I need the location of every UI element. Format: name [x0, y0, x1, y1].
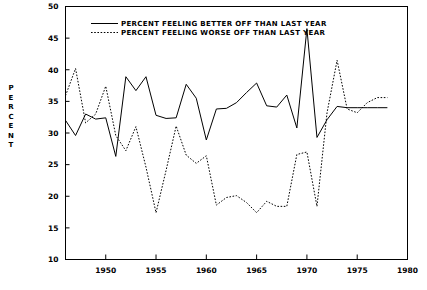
x-axis-ticks — [106, 255, 408, 260]
y-axis-title-char: P — [4, 84, 18, 94]
x-tick-label: 1965 — [246, 266, 267, 275]
y-tick-label: 15 — [48, 224, 58, 233]
chart-figure: P E R C E N T 101520253035404550 1950195… — [0, 0, 427, 290]
y-axis-title-char: T — [4, 141, 18, 151]
y-tick-label: 10 — [48, 255, 58, 264]
y-tick-label: 45 — [48, 34, 58, 43]
x-tick-label: 1970 — [296, 266, 317, 275]
series-line-worse-off — [66, 60, 388, 212]
plot-frame — [66, 7, 408, 260]
series-line-better-off — [66, 29, 388, 157]
y-axis-title-char: N — [4, 132, 18, 142]
x-tick-label: 1950 — [95, 266, 116, 275]
y-axis-tick-labels: 101520253035404550 — [48, 2, 58, 264]
y-axis-title-char: E — [4, 122, 18, 132]
y-axis-ticks — [66, 7, 70, 260]
legend-label-worse-off: PERCENT FEELING WORSE OFF THAN LAST YEAR — [121, 29, 325, 37]
y-tick-label: 30 — [48, 129, 58, 138]
x-axis-tick-labels: 1950195519601965197019751980 — [95, 266, 418, 275]
y-tick-label: 40 — [48, 66, 58, 75]
y-tick-label: 35 — [48, 97, 58, 106]
line-chart-plot: 101520253035404550 195019551960196519701… — [0, 0, 427, 290]
legend-label-better-off: PERCENT FEELING BETTER OFF THAN LAST YEA… — [121, 20, 327, 28]
y-tick-label: 50 — [48, 2, 58, 11]
chart-legend: PERCENT FEELING BETTER OFF THAN LAST YEA… — [91, 20, 327, 37]
x-tick-label: 1960 — [196, 266, 217, 275]
x-tick-label: 1980 — [397, 266, 418, 275]
y-tick-label: 20 — [48, 192, 58, 201]
x-tick-label: 1975 — [347, 266, 368, 275]
y-axis-title-char: C — [4, 113, 18, 123]
y-tick-label: 25 — [48, 160, 58, 169]
y-axis-title-char: R — [4, 103, 18, 113]
x-tick-label: 1955 — [146, 266, 167, 275]
y-axis-title-char: E — [4, 94, 18, 104]
y-axis-title: P E R C E N T — [4, 84, 18, 151]
